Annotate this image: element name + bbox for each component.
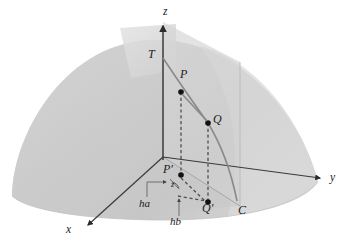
annotation-label-z-small: z	[171, 180, 174, 189]
point-label-Q-prime: Q'	[202, 202, 213, 214]
annotation-label-ha: ha	[139, 198, 150, 209]
point-label-T: T	[148, 48, 155, 60]
geometry-diagram-svg	[0, 0, 349, 250]
annotation-label-hb: hb	[170, 216, 181, 227]
axis-label-y: y	[330, 172, 335, 184]
point-label-P-prime: P'	[163, 163, 173, 175]
axis-label-x: x	[66, 224, 71, 236]
figure-container: z y x T P Q P' Q' C ha hb z	[0, 0, 349, 250]
point-Pprime	[178, 172, 184, 178]
point-label-Q: Q	[213, 113, 222, 125]
point-label-P: P	[180, 68, 187, 80]
axis-label-z: z	[163, 6, 167, 18]
curve-label-C: C	[238, 204, 246, 216]
